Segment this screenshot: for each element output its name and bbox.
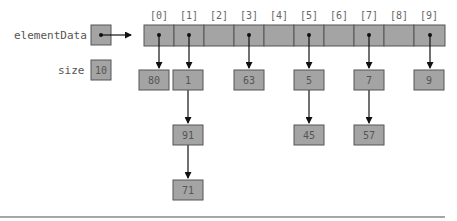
node-1: 1 <box>173 70 203 90</box>
index-label: [9] <box>420 10 438 21</box>
index-label: [1] <box>180 10 198 21</box>
node-value: 57 <box>363 130 375 141</box>
node-5: 5 <box>294 70 324 90</box>
index-label: [2] <box>210 10 228 21</box>
array-cell-4 <box>264 25 294 46</box>
node-71: 71 <box>173 180 203 200</box>
node-91: 91 <box>173 125 203 145</box>
element-data-label: elementData <box>14 29 87 42</box>
node-value: 80 <box>148 75 160 86</box>
index-label: [6] <box>330 10 348 21</box>
index-label: [5] <box>300 10 318 21</box>
node-value: 1 <box>185 75 191 86</box>
array-cell-2 <box>204 25 234 46</box>
node-45: 45 <box>294 125 324 145</box>
node-63: 63 <box>234 70 264 90</box>
size-value: 10 <box>95 65 107 76</box>
node-9: 9 <box>414 70 444 90</box>
array-indices: [0] [1] [2] [3] [4] [5] [6] [7] [8] [9] <box>150 10 438 21</box>
index-label: [4] <box>270 10 288 21</box>
index-label: [7] <box>360 10 378 21</box>
node-value: 7 <box>366 75 372 86</box>
index-label: [0] <box>150 10 168 21</box>
node-value: 45 <box>303 130 315 141</box>
node-value: 71 <box>182 185 194 196</box>
index-label: [8] <box>390 10 408 21</box>
node-value: 9 <box>426 75 432 86</box>
node-57: 57 <box>354 125 384 145</box>
hash-table-diagram: elementData size 10 [0] [1] [2] [3] [4] … <box>0 0 457 221</box>
chain-links <box>188 90 369 178</box>
node-value: 63 <box>243 75 255 86</box>
size-label: size <box>58 64 85 77</box>
array-cell-8 <box>384 25 414 46</box>
node-value: 5 <box>306 75 312 86</box>
index-label: [3] <box>240 10 258 21</box>
node-80: 80 <box>139 70 169 90</box>
node-7: 7 <box>354 70 384 90</box>
array-cell-6 <box>324 25 354 46</box>
node-value: 91 <box>182 130 194 141</box>
